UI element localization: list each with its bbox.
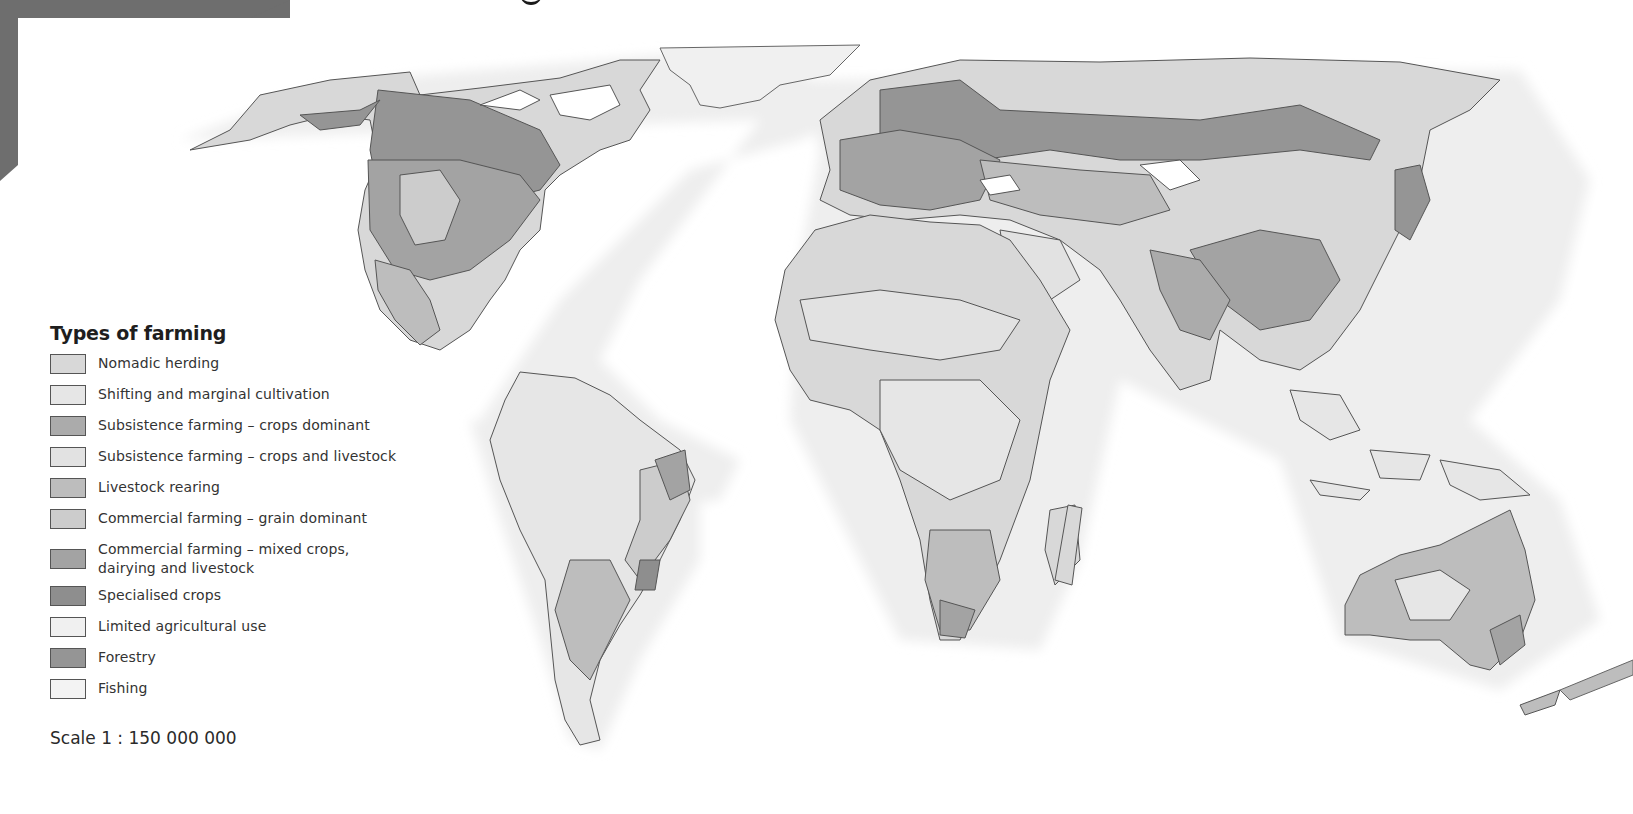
legend-label: Subsistence farming – crops and livestoc… bbox=[98, 447, 396, 466]
swatch-specialised-crops bbox=[50, 586, 86, 606]
swatch-commercial-mixed bbox=[50, 549, 86, 569]
legend-item-fishing: Fishing bbox=[50, 679, 430, 701]
legend-label: Livestock rearing bbox=[98, 478, 220, 497]
legend-label: Shifting and marginal cultivation bbox=[98, 385, 330, 404]
legend-label-line1: Commercial farming – mixed crops, bbox=[98, 541, 349, 557]
legend-label: Commercial farming – mixed crops, dairyi… bbox=[98, 540, 349, 578]
legend-label: Fishing bbox=[98, 679, 147, 698]
legend-label: Nomadic herding bbox=[98, 354, 219, 373]
swatch-fishing bbox=[50, 679, 86, 699]
swatch-livestock-rearing bbox=[50, 478, 86, 498]
legend-item-commercial-grain: Commercial farming – grain dominant bbox=[50, 509, 430, 531]
legend: Types of farming Nomadic herding Shiftin… bbox=[50, 322, 430, 710]
new-zealand bbox=[1560, 660, 1633, 700]
legend-label: Commercial farming – grain dominant bbox=[98, 509, 367, 528]
swatch-subsistence-crops-livestock bbox=[50, 447, 86, 467]
legend-label: Subsistence farming – crops dominant bbox=[98, 416, 370, 435]
legend-item-livestock-rearing: Livestock rearing bbox=[50, 478, 430, 500]
swatch-nomadic-herding bbox=[50, 354, 86, 374]
legend-label-line2: dairying and livestock bbox=[98, 560, 254, 576]
legend-item-specialised-crops: Specialised crops bbox=[50, 586, 430, 608]
swatch-subsistence-crops bbox=[50, 416, 86, 436]
map-scale: Scale 1 : 150 000 000 bbox=[50, 728, 237, 748]
swatch-commercial-grain bbox=[50, 509, 86, 529]
legend-title: Types of farming bbox=[50, 322, 430, 344]
legend-item-forestry: Forestry bbox=[50, 648, 430, 670]
swatch-forestry bbox=[50, 648, 86, 668]
swatch-shifting-cultivation bbox=[50, 385, 86, 405]
legend-item-shifting-cultivation: Shifting and marginal cultivation bbox=[50, 385, 430, 407]
legend-item-limited-use: Limited agricultural use bbox=[50, 617, 430, 639]
legend-label: Limited agricultural use bbox=[98, 617, 266, 636]
legend-item-subsistence-crops-livestock: Subsistence farming – crops and livestoc… bbox=[50, 447, 430, 469]
legend-item-subsistence-crops: Subsistence farming – crops dominant bbox=[50, 416, 430, 438]
swatch-limited-use bbox=[50, 617, 86, 637]
legend-list: Nomadic herding Shifting and marginal cu… bbox=[50, 354, 430, 701]
legend-item-nomadic-herding: Nomadic herding bbox=[50, 354, 430, 376]
legend-label: Forestry bbox=[98, 648, 156, 667]
legend-label: Specialised crops bbox=[98, 586, 221, 605]
legend-item-commercial-mixed: Commercial farming – mixed crops, dairyi… bbox=[50, 540, 430, 578]
